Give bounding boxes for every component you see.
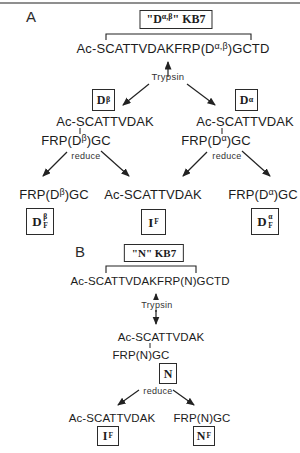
branch-a-right-top: Ac-SCATTVDAK (196, 114, 294, 129)
d-alpha-main: D (240, 94, 249, 106)
reduce-arrow-a-right-2 (242, 151, 270, 176)
branch-a-right-pre: FRP(D (181, 133, 221, 148)
fragment-box-d-beta: Dβ (92, 89, 115, 111)
product-a-right-post: )GC (274, 187, 298, 202)
reduce-arrow-b-right (173, 390, 194, 405)
i-f-b-main: I (103, 430, 108, 442)
seq-a-sup: α,β (215, 41, 228, 51)
fragment-box-d-alpha: Dα (235, 89, 258, 111)
branch-a-left-pre: FRP(D (41, 133, 81, 148)
figure-canvas: A "Dα,β" KB7 Ac-SCATTVDAKFRP(Dα,β)GCTD T… (0, 0, 300, 453)
trypsin-label-a: Trypsin (152, 71, 185, 82)
seq-a-pre: Ac-SCATTVDAKFRP(D (77, 41, 215, 56)
branch-a-left-top: Ac-SCATTVDAK (56, 114, 154, 129)
disulfide-bracket-a (106, 34, 251, 40)
species-box-n-f: NF (193, 426, 215, 446)
product-a-left-text: FRP(Dβ)GC (19, 187, 89, 202)
product-a-right-pre: FRP(D (228, 187, 268, 202)
trypsin-label-b: Trypsin (138, 300, 175, 310)
branch-a-right-post: )GC (227, 133, 251, 148)
panel-b-title-box: "N" KB7 (124, 244, 184, 262)
seq-a-post: )GCTD (228, 41, 270, 56)
disulfide-bracket-b (106, 266, 196, 273)
panel-a-sequence: Ac-SCATTVDAKFRP(Dα,β)GCTD (77, 41, 270, 56)
species-box-i-f-a: IF (141, 209, 166, 235)
reduce-label-b: reduce (143, 386, 172, 396)
panel-a-title-pre: "D (146, 12, 161, 26)
i-f-b-sub: F (109, 432, 114, 440)
species-box-d-beta-f: DβF (26, 208, 54, 235)
product-a-right-text: FRP(Dα)GC (228, 187, 298, 202)
n-f-sub: F (207, 432, 212, 440)
d-beta-f-main: D (32, 215, 41, 228)
species-box-d-alpha-f: DαF (251, 208, 279, 235)
d-beta-main: D (97, 94, 106, 106)
product-a-left-post: )GC (65, 187, 89, 202)
panel-b-sequence: Ac-SCATTVDAKFRP(N)GCTD (70, 275, 229, 287)
reduce-arrow-b-left (118, 390, 139, 405)
d-beta-f-sub: F (43, 222, 48, 231)
panel-a-title-sup: α,β (162, 12, 173, 21)
branch-a-left-post: )GC (87, 133, 111, 148)
split-arrow-a-left (123, 84, 149, 105)
i-f-a-sub: F (154, 218, 159, 226)
product-b-left-text: Ac-SCATTVDAK (69, 412, 156, 424)
product-a-left-pre: FRP(D (19, 187, 59, 202)
branch-a-left-bottom: FRP(Dβ)GC (41, 133, 111, 148)
panel-a-title-box: "Dα,β" KB7 (139, 10, 212, 29)
panel-a-label: A (26, 8, 36, 25)
top-rule-divider (0, 2, 300, 4)
split-arrow-a-right (187, 84, 215, 105)
d-beta-sup: β (106, 96, 110, 104)
pair-b-top: Ac-SCATTVDAK (118, 331, 205, 343)
i-f-a-main: I (148, 216, 153, 229)
panel-b-title-text: "N" KB7 (132, 247, 176, 259)
branch-a-right-bottom: FRP(Dα)GC (181, 133, 251, 148)
species-box-i-f-b: IF (97, 426, 119, 446)
d-alpha-f-main: D (257, 215, 266, 228)
n-box-main: N (164, 368, 173, 380)
reduce-arrow-a-left-2 (101, 151, 129, 176)
reduce-label-a-right: reduce (212, 151, 241, 161)
reduce-arrow-a-left-1 (43, 152, 67, 176)
pair-b-bottom: FRP(N)GC (112, 349, 169, 361)
reduce-label-a-left: reduce (71, 151, 100, 161)
d-alpha-sup: α (249, 96, 253, 104)
product-a-center-text: Ac-SCATTVDAK (104, 187, 202, 202)
reduce-arrow-a-right-1 (183, 152, 207, 176)
panel-b-label: B (75, 243, 85, 260)
fragment-box-n: N (159, 363, 177, 384)
d-alpha-f-sub: F (268, 222, 273, 231)
panel-a-title-post: " KB7 (173, 12, 206, 26)
n-f-main: N (197, 430, 206, 442)
product-b-right-text: FRP(N)GC (173, 412, 230, 424)
